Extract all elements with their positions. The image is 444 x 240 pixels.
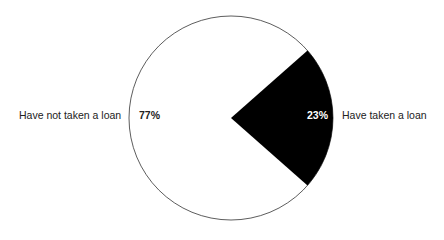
pct-not-taken: 77% bbox=[139, 109, 160, 121]
pct-taken: 23% bbox=[307, 109, 328, 121]
label-not-taken: Have not taken a loan bbox=[19, 109, 121, 121]
label-taken: Have taken a loan bbox=[342, 109, 427, 121]
